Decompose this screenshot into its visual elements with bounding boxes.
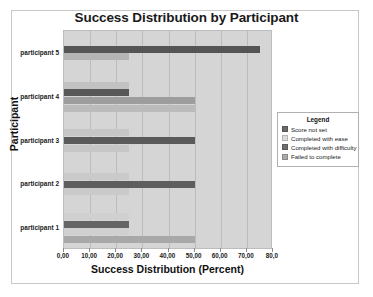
legend-item: Score not set bbox=[282, 126, 354, 133]
bar bbox=[64, 89, 129, 96]
x-axis-tickmark bbox=[168, 248, 169, 252]
legend-swatch-icon bbox=[282, 154, 288, 160]
y-axis-tick-labels: participant 1participant 2participant 3p… bbox=[0, 30, 63, 249]
bar bbox=[64, 129, 129, 136]
x-axis-tick-label: 80,0 bbox=[252, 252, 292, 259]
bar bbox=[64, 105, 195, 112]
y-axis-tick-label: participant 1 bbox=[3, 224, 63, 231]
x-axis-tickmark bbox=[141, 248, 142, 252]
bar bbox=[64, 228, 129, 235]
legend-swatch-icon bbox=[282, 144, 288, 150]
y-axis-tick-label: participant 2 bbox=[3, 180, 63, 187]
bar bbox=[64, 213, 129, 220]
legend-item-label: Failed to complete bbox=[291, 153, 341, 160]
chart-figure: Success Distribution by Participant Part… bbox=[0, 0, 373, 297]
gridline bbox=[195, 31, 196, 248]
y-axis-tick-label: participant 4 bbox=[3, 92, 63, 99]
chart-title: Success Distribution by Participant bbox=[0, 10, 373, 25]
bar bbox=[64, 46, 260, 53]
legend-swatch-icon bbox=[282, 126, 288, 132]
bar bbox=[64, 221, 129, 228]
legend-item-label: Completed with difficulty bbox=[291, 144, 357, 151]
bar bbox=[64, 82, 129, 89]
x-axis-tickmark bbox=[89, 248, 90, 252]
y-axis-tick-label: participant 3 bbox=[3, 136, 63, 143]
x-axis-tickmark bbox=[272, 248, 273, 252]
bar bbox=[64, 181, 195, 188]
legend-item: Completed with difficulty bbox=[282, 144, 354, 151]
bar bbox=[64, 173, 129, 180]
gridline bbox=[221, 31, 222, 248]
x-axis-tickmark bbox=[246, 248, 247, 252]
bar bbox=[64, 137, 195, 144]
bar bbox=[64, 145, 129, 152]
legend-title: Legend bbox=[282, 116, 354, 123]
legend-item: Completed with ease bbox=[282, 135, 354, 142]
x-axis-tickmark bbox=[194, 248, 195, 252]
bar bbox=[64, 188, 129, 195]
x-axis-title: Success Distribution (Percent) bbox=[40, 263, 295, 275]
legend-item-label: Completed with ease bbox=[291, 135, 348, 142]
legend-items: Score not setCompleted with easeComplete… bbox=[282, 126, 354, 161]
x-axis-tickmark bbox=[115, 248, 116, 252]
x-axis-tickmark bbox=[63, 248, 64, 252]
bar bbox=[64, 53, 129, 60]
gridline bbox=[247, 31, 248, 248]
legend-item-label: Score not set bbox=[291, 126, 327, 133]
bar bbox=[64, 97, 195, 104]
legend: Legend Score not setCompleted with easeC… bbox=[277, 112, 359, 167]
y-axis-tick-label: participant 5 bbox=[3, 48, 63, 55]
x-axis-tickmark bbox=[220, 248, 221, 252]
plot-area bbox=[63, 30, 272, 249]
bar bbox=[64, 236, 195, 243]
legend-swatch-icon bbox=[282, 135, 288, 141]
legend-item: Failed to complete bbox=[282, 153, 354, 160]
